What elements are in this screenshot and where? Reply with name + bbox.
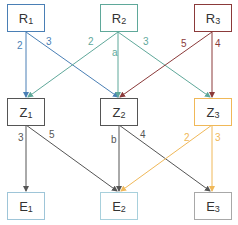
edge-r2-z3 (118, 32, 210, 97)
edge-label-r2-z2: a (112, 48, 118, 58)
node-z1-label: Z (20, 105, 28, 120)
node-r1-label: R (19, 11, 28, 26)
node-z2: Z2 (100, 98, 138, 126)
edge-label-r1-z2: 3 (46, 37, 52, 47)
edge-z2-e3 (119, 125, 210, 191)
node-r3-label: R (206, 11, 215, 26)
node-z3-subscript: 3 (214, 110, 219, 120)
node-r3-subscript: 3 (215, 16, 220, 26)
edge-label-r2-z1: 2 (88, 37, 94, 47)
edge-label-r3-z3: 4 (215, 39, 221, 49)
node-e2-subscript: 2 (121, 204, 126, 214)
node-z2-subscript: 2 (120, 110, 125, 120)
node-z1: Z1 (7, 98, 45, 126)
node-r2-subscript: 2 (121, 16, 126, 26)
node-r2-label: R (112, 11, 121, 26)
edge-label-z1-e2: 5 (49, 130, 55, 140)
node-e3-label: E (206, 199, 215, 214)
node-z3-label: Z (207, 105, 215, 120)
node-e3: E3 (194, 192, 232, 220)
edge-label-z2-e2: b (111, 135, 117, 145)
edge-z3-e2 (121, 125, 212, 191)
flow-diagram: R1 R2 R3 Z1 Z2 Z3 E1 E2 E3 2 3 2 a 3 5 4… (0, 0, 238, 225)
node-r1-subscript: 1 (28, 16, 33, 26)
node-z1-subscript: 1 (27, 110, 32, 120)
edge-r3-z2 (120, 32, 212, 97)
node-e1: E1 (7, 192, 45, 220)
edge-label-r2-z3: 3 (143, 37, 149, 47)
edge-label-r3-z2: 5 (181, 39, 187, 49)
node-e1-label: E (19, 199, 28, 214)
edge-label-r1-z1: 2 (17, 41, 23, 51)
edge-z1-e2 (26, 125, 117, 191)
edge-label-z3-e3: 3 (215, 133, 221, 143)
node-r3: R3 (194, 4, 232, 32)
edge-label-z2-e3: 4 (140, 130, 146, 140)
edge-label-z3-e2: 2 (184, 133, 190, 143)
node-z2-label: Z (113, 105, 121, 120)
node-r1: R1 (7, 4, 45, 32)
node-e1-subscript: 1 (28, 204, 33, 214)
node-z3: Z3 (194, 98, 232, 126)
node-e3-subscript: 3 (215, 204, 220, 214)
node-r2: R2 (100, 4, 138, 32)
node-e2: E2 (100, 192, 138, 220)
edge-label-z1-e1: 3 (18, 133, 24, 143)
node-e2-label: E (112, 199, 121, 214)
